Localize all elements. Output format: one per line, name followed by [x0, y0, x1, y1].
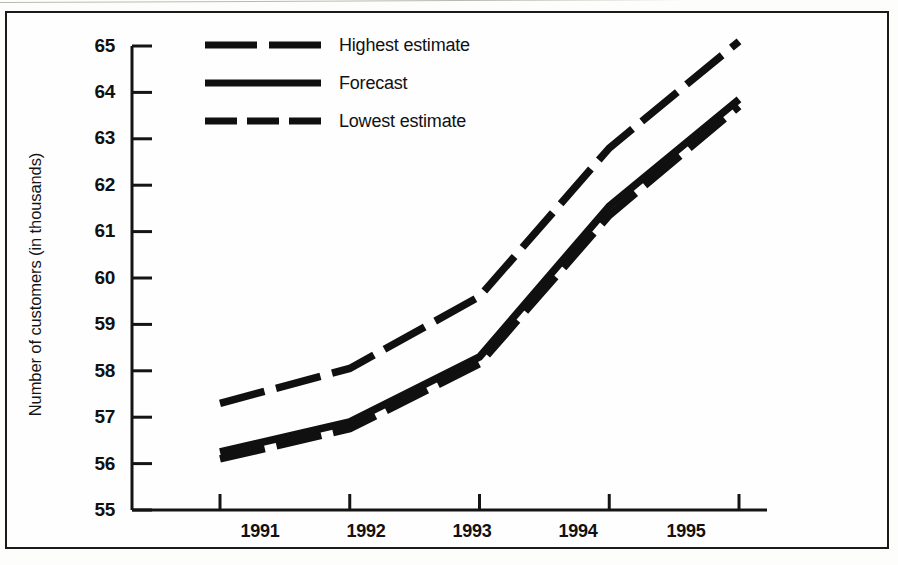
scan-artifact-line: [0, 0, 898, 3]
plot-area: [7, 13, 891, 551]
chart-page: Number of customers (in thousands) 65 64…: [0, 0, 898, 565]
axes-group: [132, 46, 767, 510]
figure-frame: Number of customers (in thousands) 65 64…: [5, 11, 889, 549]
series-line-highest-estimate: [220, 41, 739, 403]
series-group: [220, 41, 739, 459]
series-line-forecast: [220, 99, 739, 452]
